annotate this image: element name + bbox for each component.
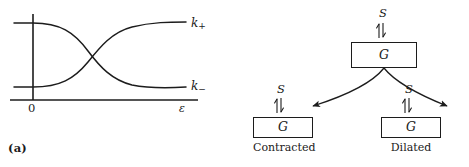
node-caption-dilated: Dilated — [381, 141, 441, 154]
curve-label-k-minus: k− — [191, 79, 206, 94]
up-down-double-arrow-icon — [375, 22, 387, 39]
curve-label-k-plus: k+ — [191, 16, 206, 31]
root-state-label: S — [379, 6, 387, 20]
panel-b-diagram: S G S — [235, 0, 469, 167]
node-caption-contracted: Contracted — [253, 141, 313, 154]
up-down-double-arrow-icon-contracted — [273, 97, 285, 114]
up-down-double-arrow-icon-dilated — [401, 97, 413, 114]
node-box-dilated: G — [381, 117, 441, 138]
x-axis-origin-tick-label: 0 — [28, 101, 35, 115]
dilated-state-label: S — [405, 82, 413, 96]
x-axis-label: ε — [179, 102, 185, 115]
branch-arrow-right — [384, 68, 447, 106]
node-box-contracted: G — [253, 117, 313, 138]
node-box-dilated-label: G — [406, 121, 416, 134]
panel-a-line-plot: k+ k− 0 ε (a) — [0, 0, 235, 167]
figure-root: k+ k− 0 ε (a) S G — [0, 0, 469, 167]
contracted-state-label: S — [277, 82, 285, 96]
node-box-contracted-label: G — [278, 121, 288, 134]
curve-k-plus — [14, 22, 186, 87]
panel-a-caption: (a) — [8, 141, 27, 155]
branch-arrow-left — [313, 68, 384, 106]
curved-branch-arrows-icon — [235, 60, 469, 120]
curve-k-minus — [14, 23, 186, 88]
